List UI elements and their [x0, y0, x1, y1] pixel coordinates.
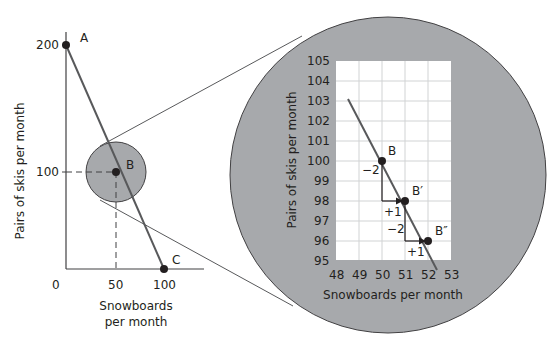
zoom-point-b2-label: B″ — [435, 224, 448, 238]
zoom-ytick: 100 — [307, 154, 330, 168]
left-x-axis-label-line2: per month — [96, 315, 176, 329]
zoom-xtick: 53 — [444, 268, 459, 282]
zoom-point-b2-marker — [424, 237, 432, 245]
zoom-point-b1-label: B′ — [412, 184, 423, 198]
zoom-ytick: 103 — [307, 94, 330, 108]
zoom-xtick: 48 — [329, 268, 344, 282]
left-xtick-100: 100 — [153, 278, 176, 292]
zoom-xtick: 50 — [375, 268, 390, 282]
left-x-axis-label-line1: Snowboards — [96, 299, 176, 313]
left-point-c-label: C — [172, 253, 180, 267]
zoom-ytick: 105 — [307, 54, 330, 68]
zoom-ytick: 98 — [314, 194, 329, 208]
left-point-b-label: B — [126, 158, 134, 172]
ppf-line — [66, 45, 164, 269]
step1-down-label: −2 — [362, 163, 380, 177]
zoom-point-b1-marker — [401, 197, 409, 205]
zoom-x-axis-label: Snowboards per month — [318, 288, 468, 302]
zoom-point-b-label: B — [388, 144, 396, 158]
step2-down-label: −2 — [387, 222, 405, 236]
left-xtick-50: 50 — [108, 278, 123, 292]
zoom-ytick: 104 — [307, 74, 330, 88]
step2-right-label: +1 — [407, 245, 425, 259]
point-b-marker — [112, 168, 120, 176]
zoom-xtick: 49 — [352, 268, 367, 282]
point-c-marker — [160, 265, 168, 273]
left-ytick-100: 100 — [36, 165, 59, 179]
zoom-y-axis-label: Pairs of skis per month — [285, 85, 299, 235]
zoom-ytick: 102 — [307, 114, 330, 128]
step1-right-label: +1 — [384, 205, 402, 219]
figure-canvas — [0, 0, 559, 350]
left-point-a-label: A — [80, 31, 88, 45]
zoom-ytick: 96 — [314, 234, 329, 248]
zoom-xtick: 51 — [398, 268, 413, 282]
zoom-ytick: 99 — [314, 174, 329, 188]
zoom-xtick: 52 — [421, 268, 436, 282]
point-a-marker — [62, 41, 70, 49]
left-ytick-200: 200 — [36, 38, 59, 52]
zoom-ytick: 97 — [314, 214, 329, 228]
zoom-ytick: 95 — [314, 254, 329, 268]
zoom-ytick: 101 — [307, 134, 330, 148]
left-y-axis-label: Pairs of skis per month — [13, 96, 27, 246]
left-origin-label: 0 — [52, 278, 60, 292]
